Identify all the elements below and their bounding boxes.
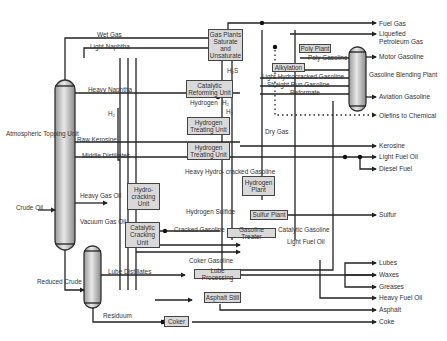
product-lubes: Lubes [379,259,397,267]
coker-unit: Coker [164,316,189,327]
asphalt-still-unit: Asphalt Still [204,292,241,303]
hydrogen-label: Hydrogen [190,99,218,106]
coker-gasoline-label: Coker Gasoline [189,257,233,264]
heavy-naphtha-label: Heavy Naphtha [88,86,132,93]
product-fuel-gas: Fuel Gas [379,20,406,28]
product-aviation-gasoline: Aviation Gasoline [379,93,430,101]
raw-kerosine-label: Raw Kerosine [77,136,117,143]
heavy-hydrocracked-gasoline-label: Heavy Hydro- cracked Gasoline [185,168,275,175]
product-light-fuel-oil: Light Fuel Oil [379,153,418,161]
residuum-label: Residuum [103,312,132,319]
product-coke: Coke [379,318,394,326]
catalytic-cracking-unit: Catalytic Cracking Unit [125,222,160,248]
product-greases: Greases [379,283,404,291]
product-lpg: Liquefied Petroleum Gas [379,30,423,46]
alkylation-unit: Alkylation [272,63,305,72]
light-hydrocracked-gasoline-label: Light Hydrocracked Gasoline [262,73,344,80]
product-sulfur: Sulfur [379,211,396,219]
h2s-label: H₂S [227,67,238,74]
cracked-gasoline-label: Cracked Gasoline [174,226,225,233]
product-kerosine: Kerosine [379,142,405,150]
reformate-label: Reformate [290,89,320,96]
straight-run-gasoline-label: Straight Run Gasoline [267,81,330,88]
dry-gas-label: Dry Gas [265,128,288,135]
h2-left-label: H₂ [108,110,115,117]
gasoline-blending-plant-label: Gasoline Blending Plant [369,71,437,78]
lube-processing-unit: Lube Processing [194,269,241,279]
product-olefins: Olefins to Chemical [379,112,436,120]
product-heavy-fuel-oil: Heavy Fuel Oil [379,294,422,302]
light-naphtha-label: Light Naphtha [90,43,130,50]
poly-plant-unit: Poly Plant [299,44,331,53]
wet-gas-label: Wet Gas [97,31,122,38]
reduced-crude-label: Reduced Crude [37,278,82,285]
catalytic-reforming-unit: Catalytic Reforming Unit [186,80,233,98]
product-motor-gasoline: Motor Gasoline [379,53,424,61]
product-diesel-fuel: Diesel Fuel [379,165,412,173]
product-waxes: Waxes [379,271,399,279]
hydrocracking-unit: Hydro- cracking Unit [127,183,160,210]
sulfur-plant-unit: Sulfur Plant [250,210,288,220]
catalytic-gasoline-label: Catalytic Gasoline [278,226,330,233]
middle-distillates-label: Middle Distillates [82,152,130,159]
poly-gasoline-label: Poly Gasoline [308,54,347,61]
atmospheric-topping-unit-label: Atmospheric Topping Unit [6,130,79,137]
h2-a-label: H₂ [222,99,229,106]
light-fuel-oil-mid-label: Light Fuel Oil [287,238,325,245]
product-asphalt: Asphalt [379,306,401,314]
heavy-gas-oil-label: Heavy Gas Oil [80,192,121,199]
vacuum-gas-oil-label: Vacuum Gas Oil [80,218,126,225]
crude-oil-label: Crude Oil [16,204,43,211]
lube-distillates-label: Lube Distillates [108,268,151,275]
hydrogen-plant-unit: Hydrogen Plant [242,176,275,196]
hydrogen-treating-unit-2: Hydrogen Treating Unit [187,142,230,160]
h2-b-label: H₂ [226,108,233,115]
gas-plants-unit: Gas Plants Saturate and Unsaturate [208,29,243,61]
hydrogen-sulfide-label: Hydrogen Sulfide [186,208,235,215]
hydrogen-treating-unit-1: Hydrogen Treating Unit [187,117,230,135]
gasoline-treater-unit: Gasoline Treater [227,228,276,238]
